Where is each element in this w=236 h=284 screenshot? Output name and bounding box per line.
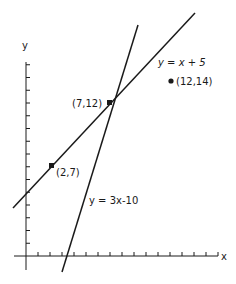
point-2-7-marker	[49, 163, 54, 168]
line-y-equals-3x-minus-10	[62, 25, 138, 272]
point-2-7-label: (2,7)	[56, 167, 80, 178]
y-axis-ticks	[26, 65, 30, 244]
x-axis-label: x	[221, 251, 227, 262]
x-axis-ticks	[38, 252, 218, 256]
point-7-12-marker	[107, 100, 112, 105]
line-y-equals-x-plus-5	[13, 13, 195, 208]
y-axis-label: y	[22, 40, 28, 51]
point-12-14-marker	[168, 78, 173, 83]
line2-equation-label: y = 3x-10	[89, 195, 138, 206]
point-12-14-label: (12,14)	[176, 76, 213, 87]
point-7-12-label: (7,12)	[72, 98, 102, 109]
coordinate-plane: y x (2,7) (7,12) (12,14) y = x + 5 y = 3…	[0, 0, 236, 284]
line1-equation-label: y = x + 5	[157, 57, 206, 68]
